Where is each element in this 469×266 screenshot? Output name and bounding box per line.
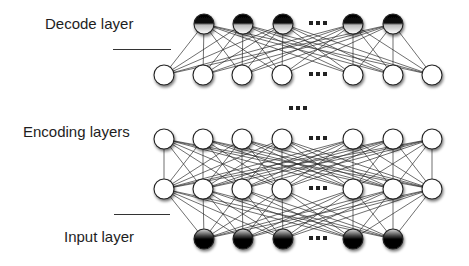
input-layer-ellipsis-icon <box>309 236 313 240</box>
middle-layers-ellipsis-icon <box>303 106 307 110</box>
encoding-layer-2-ellipsis-icon <box>309 186 313 190</box>
input-layer-ellipsis-icon <box>323 236 327 240</box>
decode-layer-node <box>343 14 363 34</box>
encoding-layer-1-node <box>154 129 174 149</box>
middle-layers-ellipsis-icon <box>296 106 300 110</box>
hidden-top-layer-ellipsis-icon <box>309 72 313 76</box>
encoding-layer-2-ellipsis-icon <box>316 186 320 190</box>
input-layer-node <box>233 229 253 249</box>
hidden-top-layer-node <box>383 65 403 85</box>
encoding-layer-1-node <box>343 129 363 149</box>
encoding-layer-1-node <box>193 129 213 149</box>
encoding-layer-2-ellipsis-icon <box>323 186 327 190</box>
encoding-layer-1-ellipsis-icon <box>309 136 313 140</box>
decode-layer-ellipsis-icon <box>309 21 313 25</box>
middle-layers-ellipsis-icon <box>289 106 293 110</box>
encoding-layer-2-node <box>154 179 174 199</box>
hidden-top-layer-node <box>343 65 363 85</box>
decode-layer-node <box>233 14 253 34</box>
input-layer-node <box>343 229 363 249</box>
hidden-top-layer-node <box>232 65 252 85</box>
hidden-top-layer-node <box>272 65 292 85</box>
decode-layer-node <box>194 14 214 34</box>
hidden-top-layer-node <box>422 65 442 85</box>
decode-layer-ellipsis-icon <box>323 21 327 25</box>
encoding-layer-1-node <box>232 129 252 149</box>
decode-layer-ellipsis-icon <box>316 21 320 25</box>
hidden-top-layer-ellipsis-icon <box>323 72 327 76</box>
hidden-top-layer-ellipsis-icon <box>316 72 320 76</box>
encoding-layer-1-node <box>422 129 442 149</box>
input-layer-ellipsis-icon <box>316 236 320 240</box>
hidden-top-layer-node <box>193 65 213 85</box>
encoding-layer-1-node <box>383 129 403 149</box>
network-graph <box>0 0 469 266</box>
encoding-layer-2-node <box>383 179 403 199</box>
input-layer-node <box>194 229 214 249</box>
input-layer-node <box>383 229 403 249</box>
encoding-layer-2-node <box>193 179 213 199</box>
autoencoder-diagram: Decode layer Encoding layers Input layer <box>0 0 469 266</box>
encoding-layer-1-ellipsis-icon <box>316 136 320 140</box>
decode-layer-node <box>383 14 403 34</box>
encoding-layer-2-node <box>422 179 442 199</box>
decode-layer-node <box>273 14 293 34</box>
connection-edge <box>243 189 432 239</box>
encoding-layer-1-ellipsis-icon <box>323 136 327 140</box>
input-layer-node <box>273 229 293 249</box>
encoding-layer-2-node <box>343 179 363 199</box>
hidden-top-layer-node <box>154 65 174 85</box>
encoding-layer-2-node <box>232 179 252 199</box>
encoding-layer-1-node <box>272 129 292 149</box>
encoding-layer-2-node <box>272 179 292 199</box>
